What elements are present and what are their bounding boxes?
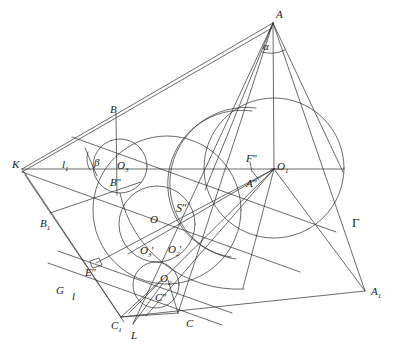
line-A-to-right-tangent <box>273 23 343 172</box>
large-projected-circle <box>93 136 241 284</box>
line-A-to-L <box>133 23 273 324</box>
label-B: B <box>110 104 117 115</box>
label-O: O <box>150 214 158 225</box>
label-K: K <box>12 159 19 170</box>
construction-lines <box>22 23 365 325</box>
auxiliary-arc-right <box>168 110 252 257</box>
label-Spp: S″ <box>176 202 187 214</box>
line-K-A <box>22 23 273 169</box>
label-O3: O3 <box>117 160 128 174</box>
label-B1: B1 <box>40 218 50 232</box>
auxiliary-arc-right-2 <box>170 107 256 259</box>
label-l: l <box>72 291 75 302</box>
diagram-canvas <box>0 0 393 349</box>
line-A1-A <box>273 23 365 291</box>
line-A-O1-vertical <box>273 23 274 169</box>
geometry-diagram: AαBKl1βO3B″F″O1A″S″OB1ΓO3′O2′E″O2GlC″A1C… <box>0 0 393 349</box>
label-O2p: O2′ <box>168 244 182 258</box>
label-O1: O1 <box>277 161 288 175</box>
label-l1: l1 <box>62 159 69 173</box>
label-beta: β <box>94 157 99 168</box>
line-L-to-O2 <box>133 283 163 324</box>
label-O3p: O3′ <box>140 245 154 259</box>
label-Fpp: F″ <box>246 153 257 164</box>
label-Cpp: C″ <box>155 292 167 303</box>
label-C1: C1 <box>111 320 122 334</box>
angle-arc-beta <box>87 152 90 170</box>
label-App: A″ <box>246 178 257 189</box>
label-alpha: α <box>263 41 269 52</box>
label-G: G <box>56 285 64 296</box>
label-C: C <box>186 318 193 329</box>
label-A: A <box>276 9 283 20</box>
line-O1-to-A1 <box>274 169 365 291</box>
label-A1: A1 <box>371 286 381 300</box>
line-A-to-C <box>178 23 273 313</box>
label-Gamma: Γ <box>352 216 360 229</box>
label-Epp: E″ <box>85 267 96 278</box>
line-C1-to-C <box>121 313 178 317</box>
label-L: L <box>131 330 137 341</box>
label-O2: O2 <box>160 273 171 287</box>
line-K-A-offset <box>22 28 272 172</box>
label-Bpp: B″ <box>110 177 121 188</box>
